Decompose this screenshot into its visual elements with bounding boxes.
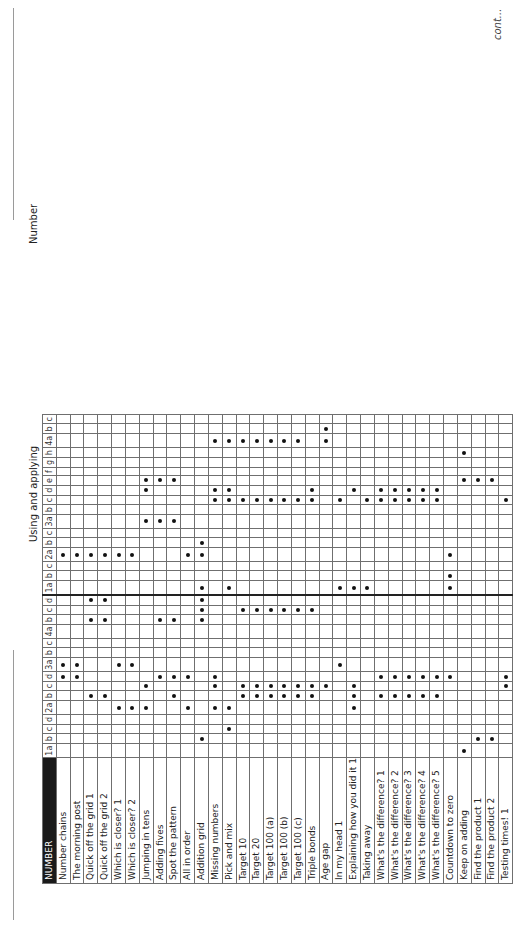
grid-cell: [361, 561, 375, 570]
bullet-mark-icon: [200, 737, 204, 741]
grid-cell: [499, 538, 513, 548]
grid-cell: [388, 515, 402, 529]
corner-header: NUMBER: [43, 758, 57, 884]
grid-cell: [374, 638, 388, 647]
grid-cell: [319, 571, 333, 581]
grid-cell: [305, 658, 319, 672]
grid-cell: [402, 734, 416, 744]
table-row: Explaining how you did it 1: [347, 415, 361, 884]
grid-cell: [333, 548, 347, 562]
bullet-mark-icon: [324, 439, 328, 443]
grid-cell: [153, 672, 167, 682]
grid-cell: [416, 571, 430, 581]
grid-cell: [374, 658, 388, 672]
bullet-mark-icon: [75, 553, 79, 557]
grid-cell: [471, 561, 485, 570]
grid-cell: [347, 485, 361, 495]
grid-cell: [333, 528, 347, 537]
grid-cell: [402, 434, 416, 448]
grid-cell: [112, 734, 126, 744]
activity-label: In my head 1: [333, 758, 347, 884]
table-row: Addition grid: [195, 415, 209, 884]
table-row: Number chains: [56, 415, 70, 884]
grid-cell: [264, 681, 278, 690]
grid-cell: [181, 448, 195, 458]
grid-cell: [208, 595, 222, 605]
grid-cell: [457, 605, 471, 614]
grid-cell: [264, 658, 278, 672]
grid-cell: [333, 681, 347, 690]
grid-cell: [305, 715, 319, 725]
grid-cell: [499, 528, 513, 537]
grid-cell: [167, 476, 181, 486]
grid-cell: [471, 476, 485, 486]
grid-cell: [222, 658, 236, 672]
grid-cell: [264, 638, 278, 647]
grid-cell: [84, 691, 98, 701]
bullet-mark-icon: [476, 478, 480, 482]
grid-cell: [388, 548, 402, 562]
grid-cell: [388, 476, 402, 486]
grid-cell: [499, 415, 513, 424]
grid-cell: [291, 538, 305, 548]
grid-cell: [402, 458, 416, 468]
grid-cell: [125, 571, 139, 581]
grid-cell: [499, 595, 513, 605]
grid-cell: [208, 415, 222, 424]
grid-cell: [471, 744, 485, 758]
grid-cell: [402, 691, 416, 701]
grid-cell: [195, 415, 209, 424]
grid-cell: [402, 681, 416, 690]
grid-cell: [361, 648, 375, 658]
grid-cell: [84, 485, 98, 495]
grid-cell: [402, 658, 416, 672]
grid-cell: [236, 605, 250, 614]
bullet-mark-icon: [393, 498, 397, 502]
grid-cell: [167, 672, 181, 682]
grid-cell: [153, 605, 167, 614]
table-row: Jumping in tens: [139, 415, 153, 884]
activity-label: What's the difference? 4: [416, 758, 430, 884]
grid-cell: [305, 595, 319, 605]
grid-cell: [222, 561, 236, 570]
grid-cell: [430, 681, 444, 690]
grid-cell: [181, 505, 195, 515]
grid-cell: [250, 467, 264, 475]
column-header-n-15: b: [43, 424, 57, 434]
grid-cell: [125, 672, 139, 682]
grid-cell: [125, 615, 139, 625]
grid-cell: [291, 548, 305, 562]
bullet-mark-icon: [338, 586, 342, 590]
grid-cell: [98, 505, 112, 515]
grid-cell: [347, 458, 361, 468]
grid-cell: [181, 424, 195, 434]
grid-cell: [222, 424, 236, 434]
grid-cell: [333, 701, 347, 715]
grid-cell: [236, 581, 250, 595]
grid-cell: [499, 734, 513, 744]
grid-cell: [444, 448, 458, 458]
table-row: What's the difference? 4: [416, 415, 430, 884]
bullet-mark-icon: [241, 439, 245, 443]
grid-cell: [56, 467, 70, 475]
grid-cell: [84, 548, 98, 562]
bullet-mark-icon: [227, 439, 231, 443]
grid-cell: [499, 485, 513, 495]
grid-cell: [195, 595, 209, 605]
bullet-mark-icon: [269, 684, 273, 688]
bullet-mark-icon: [186, 553, 190, 557]
bullet-mark-icon: [462, 749, 466, 753]
grid-cell: [70, 672, 84, 682]
grid-cell: [333, 505, 347, 515]
grid-cell: [278, 672, 292, 682]
grid-cell: [402, 485, 416, 495]
grid-cell: [139, 458, 153, 468]
activity-label: All in order: [181, 758, 195, 884]
grid-cell: [181, 476, 195, 486]
grid-cell: [347, 691, 361, 701]
bullet-mark-icon: [158, 618, 162, 622]
grid-cell: [471, 581, 485, 595]
grid-cell: [471, 515, 485, 529]
grid-cell: [236, 625, 250, 639]
column-header-ua-4: 2a: [43, 701, 57, 715]
